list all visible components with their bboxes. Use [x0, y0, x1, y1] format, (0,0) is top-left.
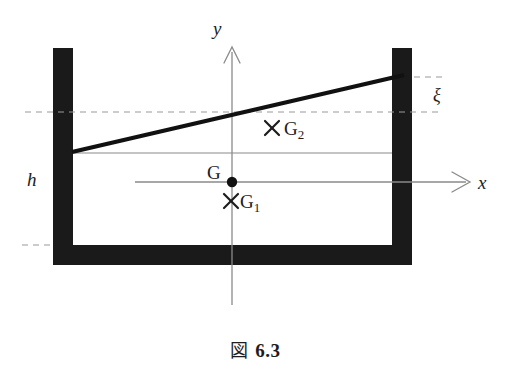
dimension-label-h: h	[27, 170, 37, 189]
y-axis-label: y	[213, 19, 221, 38]
caption-number: 6.3	[255, 340, 280, 361]
centroid-G2-cross	[265, 121, 279, 135]
figure-diagram	[0, 0, 510, 382]
dashed-reference-lines	[22, 77, 444, 245]
coordinate-axes	[135, 47, 470, 305]
centroid-G-dot	[227, 177, 237, 187]
dimension-label-xi: ξ	[433, 86, 441, 104]
tank-right-wall	[392, 48, 412, 265]
x-axis-label: x	[478, 173, 486, 192]
tilted-free-surface	[72, 75, 404, 152]
tank-left-wall	[53, 48, 73, 265]
point-label-G1: G1	[240, 192, 260, 214]
point-label-G2-base: G	[284, 118, 298, 139]
point-label-G1-subscript: 1	[254, 200, 261, 215]
point-label-G: G	[207, 163, 221, 182]
centroid-G1-cross	[224, 194, 238, 208]
point-label-G2-subscript: 2	[298, 127, 305, 142]
caption-symbol: 図	[230, 341, 249, 361]
point-label-G1-base: G	[240, 191, 254, 212]
figure-container: y x G G1 G2 h ξ 図6.3	[0, 0, 510, 382]
point-label-G2: G2	[284, 119, 304, 141]
figure-caption: 図6.3	[0, 336, 510, 362]
